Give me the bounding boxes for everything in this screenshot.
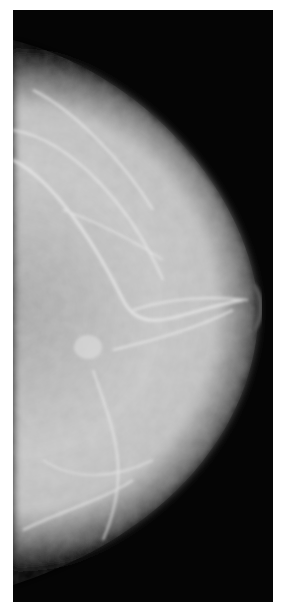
mammogram-image: [13, 10, 273, 602]
breast-tissue: [13, 10, 273, 602]
mass-region: [74, 335, 102, 359]
